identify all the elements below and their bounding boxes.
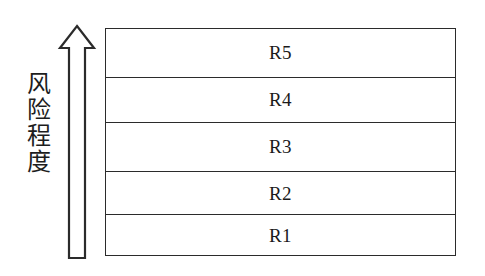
axis-label-char-1: 风 [27,72,51,98]
risk-level-label-r5: R5 [269,43,292,62]
axis-label-char-4: 度 [27,150,51,176]
risk-level-row-r4: R4 [106,78,455,124]
axis-label-char-2: 险 [27,98,51,124]
risk-level-row-r3: R3 [106,123,455,172]
risk-level-diagram: 风 险 程 度 R5 R4 R3 R2 R1 [0,0,485,276]
risk-level-row-r5: R5 [106,29,455,78]
risk-level-label-r1: R1 [269,226,292,245]
risk-level-label-r3: R3 [269,137,292,156]
risk-level-label-r2: R2 [269,184,292,203]
risk-level-row-r1: R1 [106,215,455,255]
axis-label-char-3: 程 [27,124,51,150]
up-arrow-outline-icon [56,20,98,264]
risk-level-label-r4: R4 [269,90,292,109]
risk-levels-container: R5 R4 R3 R2 R1 [105,28,456,256]
risk-degree-axis-label: 风 险 程 度 [24,72,54,176]
risk-level-row-r2: R2 [106,172,455,216]
